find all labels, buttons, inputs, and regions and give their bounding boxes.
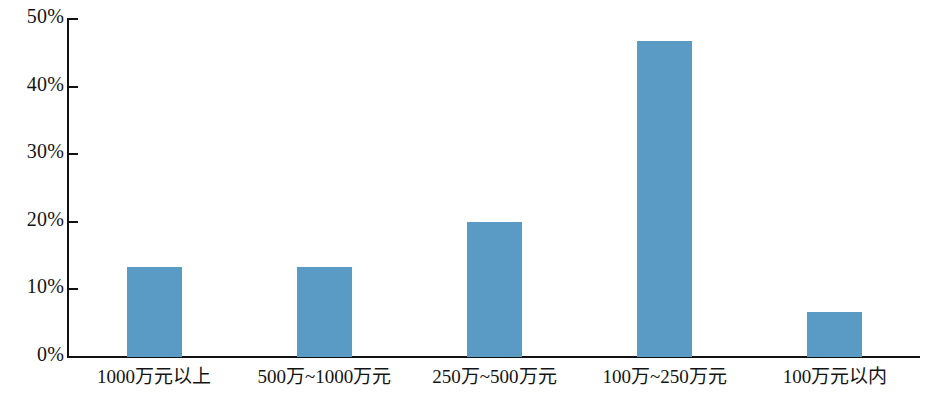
x-axis-label: 500万~1000万元 [239, 364, 409, 390]
x-axis-label: 100万元以内 [750, 364, 920, 390]
bar [637, 41, 692, 357]
bar [127, 267, 182, 357]
y-tick-label: 40% [27, 74, 64, 94]
plot-area [69, 19, 920, 357]
bar [297, 267, 352, 357]
y-tick-label: 0% [37, 344, 64, 364]
x-axis-label: 1000万元以上 [69, 364, 239, 390]
y-tick-label: 10% [27, 276, 64, 296]
bar [467, 222, 522, 357]
x-axis-label: 250万~500万元 [409, 364, 579, 390]
bar-chart: 0%10%20%30%40%50% 1000万元以上500万~1000万元250… [0, 0, 926, 394]
x-axis-labels: 1000万元以上500万~1000万元250万~500万元100万~250万元1… [69, 364, 920, 394]
y-tick-label: 30% [27, 141, 64, 161]
bar [807, 312, 862, 357]
y-tick-label: 50% [27, 6, 64, 26]
x-axis-label: 100万~250万元 [580, 364, 750, 390]
y-tick-label: 20% [27, 209, 64, 229]
